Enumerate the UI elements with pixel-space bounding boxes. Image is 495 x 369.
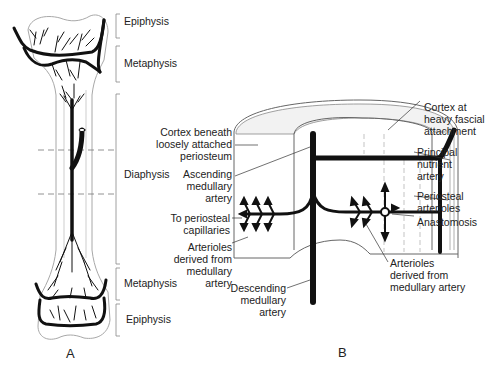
label-arterioles-right: Arterioles derived from medullary artery <box>390 257 465 293</box>
label-metaphysis-bottom: Metaphysis <box>124 277 177 289</box>
panel-a-caption: A <box>66 346 75 361</box>
label-descending-artery: Descending medullary artery <box>231 282 286 318</box>
label-to-periosteal: To periosteal capillaries <box>170 212 230 236</box>
label-principal-artery: Principal nutrient artery <box>417 146 457 182</box>
label-cortex-fascial: Cortex at heavy fascial attachment <box>424 101 485 137</box>
label-cortex-loose: Cortex beneath loosely attached perioste… <box>156 126 232 162</box>
anastomosis-ring <box>381 208 389 216</box>
label-diaphysis: Diaphysis <box>124 168 170 180</box>
label-periosteal-arterioles: Periosteal arterioles <box>417 190 464 214</box>
label-anastomosis: Anastomosis <box>417 216 477 228</box>
label-metaphysis-top: Metaphysis <box>124 57 177 69</box>
label-ascending-artery: Ascending medullary artery <box>183 168 232 204</box>
panel-b-caption: B <box>338 345 347 360</box>
label-arterioles-left: Arterioles derived from medullary artery <box>174 241 232 289</box>
label-epiphysis-top: Epiphysis <box>124 15 169 27</box>
long-bone-figure <box>14 14 120 339</box>
label-epiphysis-bottom: Epiphysis <box>126 313 171 325</box>
